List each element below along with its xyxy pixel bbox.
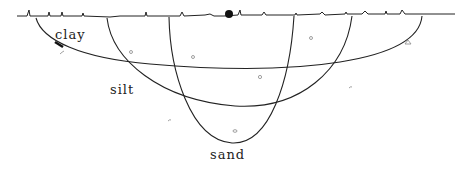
sand-boundary-curve	[169, 16, 294, 143]
clay-boundary-curve	[36, 16, 422, 68]
sand-label: sand	[210, 147, 245, 162]
ground-surface-line	[17, 10, 455, 17]
silt-label: silt	[110, 82, 134, 97]
soil-diagram: clay silt sand	[0, 0, 471, 173]
silt-boundary-curve	[107, 16, 352, 106]
marker-dot-icon	[225, 10, 233, 18]
clay-label: clay	[55, 27, 86, 42]
